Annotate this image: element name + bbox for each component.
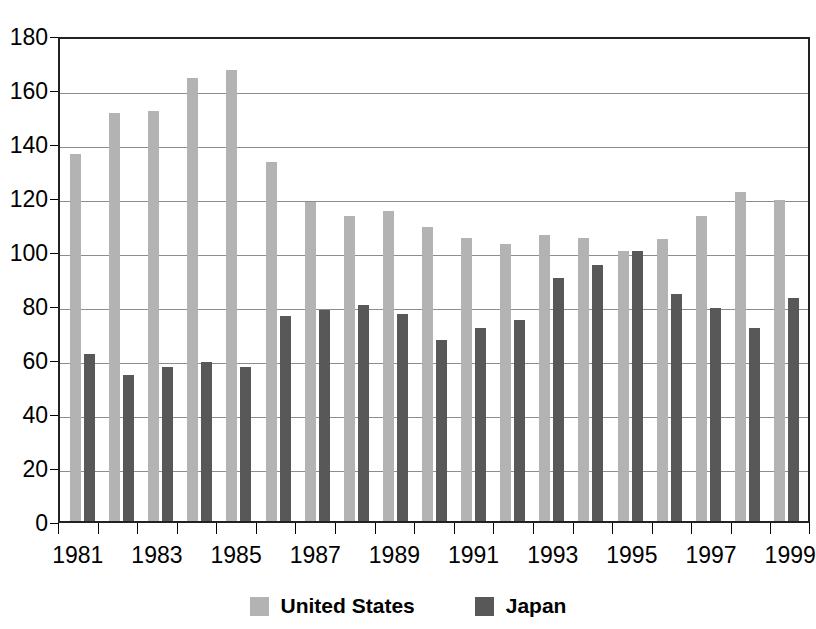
x-axis-tick-cell	[137, 523, 177, 535]
plot-wrapper: 180160140120100806040200 198119831985198…	[0, 0, 816, 580]
bar-japan	[280, 316, 291, 521]
x-axis-tick-labels: 1981198319851987198919911993199519971999	[58, 542, 810, 574]
legend-item: Japan	[475, 594, 567, 618]
x-axis-tick-cell	[177, 523, 217, 535]
y-axis-tick-mark	[50, 307, 58, 308]
x-axis-tick-label: 1991	[448, 542, 499, 569]
bar-japan	[514, 320, 525, 521]
bar-united-states	[109, 113, 120, 521]
bar-united-states	[226, 70, 237, 521]
x-axis-tick-cell	[335, 523, 375, 535]
x-axis-tick-cell	[98, 523, 138, 535]
bar-group	[767, 39, 806, 521]
legend-label: Japan	[506, 594, 567, 618]
x-axis-tick-cell	[493, 523, 533, 535]
legend-item: United States	[250, 594, 415, 618]
bar-united-states	[266, 162, 277, 521]
bar-japan	[592, 265, 603, 522]
x-axis-label-cell: 1983	[137, 542, 177, 574]
plot-area	[58, 37, 810, 523]
bar-chart: 180160140120100806040200 198119831985198…	[0, 0, 816, 629]
bar-japan	[475, 328, 486, 521]
bar-group	[259, 39, 298, 521]
bar-group	[689, 39, 728, 521]
bar-japan	[671, 294, 682, 521]
legend-swatch-icon	[250, 597, 269, 616]
bar-japan	[632, 251, 643, 521]
bar-group	[571, 39, 610, 521]
x-axis-tick-cell	[770, 523, 810, 535]
y-axis-tick-label: 140	[10, 134, 48, 157]
bar-united-states	[305, 202, 316, 521]
x-axis-tick-label: 1993	[527, 542, 578, 569]
x-axis-tick-cell	[58, 523, 98, 535]
x-axis-tick-cell	[691, 523, 731, 535]
bar-united-states	[70, 154, 81, 521]
bar-japan	[319, 310, 330, 521]
y-axis-tick-mark	[50, 415, 58, 416]
bar-japan	[162, 367, 173, 521]
y-axis-tick-label: 60	[22, 350, 48, 373]
bar-japan	[553, 278, 564, 521]
legend-swatch-icon	[475, 597, 494, 616]
bar-united-states	[422, 227, 433, 521]
x-axis-tick-label: 1981	[52, 542, 103, 569]
bar-group	[650, 39, 689, 521]
y-axis-tick-labels: 180160140120100806040200	[0, 0, 48, 580]
legend-label: United States	[281, 594, 415, 618]
x-axis-tick-label: 1999	[765, 542, 816, 569]
y-axis-tick-mark	[50, 91, 58, 92]
bar-japan	[788, 298, 799, 521]
x-axis-tick-cell	[414, 523, 454, 535]
bar-united-states	[735, 192, 746, 521]
bar-japan	[436, 340, 447, 521]
y-axis-tick-mark	[50, 253, 58, 254]
y-axis-tick-label: 120	[10, 188, 48, 211]
bar-japan	[358, 305, 369, 521]
x-axis-tick-cell	[216, 523, 256, 535]
bar-united-states	[148, 111, 159, 521]
y-axis-tick-label: 80	[22, 296, 48, 319]
bar-japan	[749, 328, 760, 521]
y-axis-tick-label: 180	[10, 26, 48, 49]
bar-group	[532, 39, 571, 521]
x-axis-label-cell: 1993	[533, 542, 573, 574]
x-axis-tick-cell	[573, 523, 613, 535]
y-axis-tick-mark	[50, 523, 58, 524]
y-axis-tick-mark	[50, 199, 58, 200]
bar-group	[337, 39, 376, 521]
bar-japan	[84, 354, 95, 521]
chart-legend: United StatesJapan	[0, 586, 816, 626]
bar-united-states	[774, 200, 785, 521]
x-axis-tick-cell	[533, 523, 573, 535]
y-axis-tick-label: 0	[35, 512, 48, 535]
bar-group	[454, 39, 493, 521]
y-axis-tick-label: 100	[10, 242, 48, 265]
bar-united-states	[657, 239, 668, 521]
y-axis-tick-label: 160	[10, 80, 48, 103]
x-axis-label-cell: 1995	[612, 542, 652, 574]
x-axis-tick-label: 1995	[606, 542, 657, 569]
bar-japan	[710, 308, 721, 521]
bar-united-states	[618, 251, 629, 521]
bar-group	[219, 39, 258, 521]
x-axis-tick-label: 1987	[290, 542, 341, 569]
y-axis-tick-mark	[50, 361, 58, 362]
x-axis-tick-label: 1997	[685, 542, 736, 569]
y-axis-tick-label: 20	[22, 458, 48, 481]
bar-group	[102, 39, 141, 521]
x-axis-label-cell: 1989	[375, 542, 415, 574]
x-axis-tick-cell	[731, 523, 771, 535]
bar-group	[298, 39, 337, 521]
x-axis-label-cell: 1985	[216, 542, 256, 574]
bar-united-states	[696, 216, 707, 521]
bar-group	[180, 39, 219, 521]
x-axis-tick-cell	[375, 523, 415, 535]
bar-group	[728, 39, 767, 521]
x-axis-tick-label: 1989	[369, 542, 420, 569]
bar-japan	[397, 314, 408, 521]
bar-japan	[201, 362, 212, 521]
x-axis-tick-label: 1985	[211, 542, 262, 569]
bar-united-states	[344, 216, 355, 521]
x-axis-label-cell: 1999	[770, 542, 810, 574]
